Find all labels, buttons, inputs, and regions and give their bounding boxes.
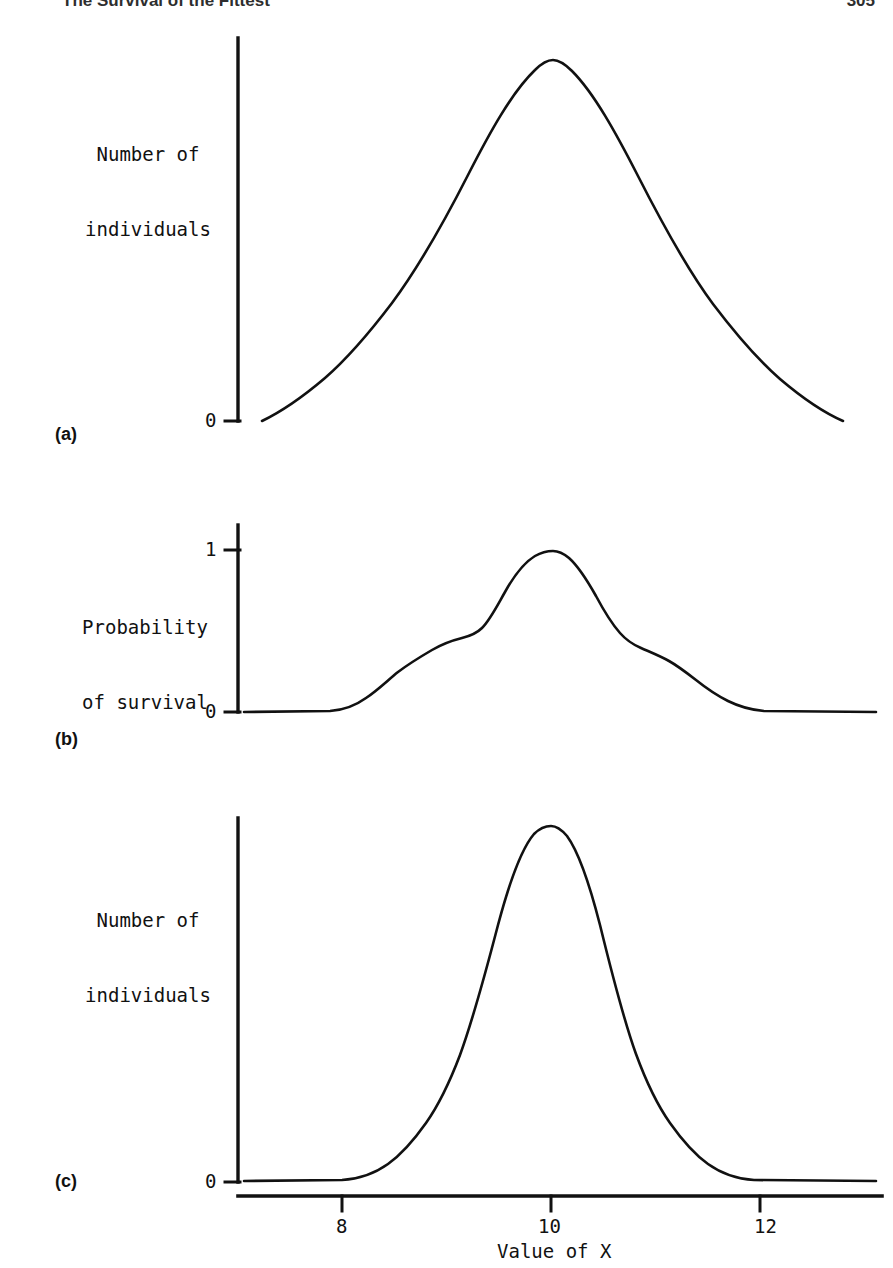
x-tick-label-8: 8: [336, 1215, 347, 1237]
panel-c-ylabel-line1: Number of: [78, 908, 218, 933]
x-tick-label-10: 10: [538, 1215, 561, 1237]
x-axis: [238, 1196, 882, 1211]
panel-a-ylabel-line2: individuals: [78, 217, 218, 242]
figure-three-panel-selection: Number of individuals 0 (a) Probability …: [0, 0, 893, 1268]
panel-a-ytick-0: 0: [205, 409, 216, 431]
panel-b-curve: [244, 551, 876, 712]
x-axis-title: Value of X: [497, 1240, 611, 1262]
panel-b-ytick-1: 1: [205, 538, 216, 560]
x-tick-label-12: 12: [754, 1215, 777, 1237]
panel-letter-c: (c): [55, 1171, 77, 1192]
panel-a-ylabel-line1: Number of: [78, 142, 218, 167]
panel-b-ylabel-line2: of survival: [70, 690, 220, 715]
panel-b-ylabel-line1: Probability: [70, 615, 220, 640]
panel-c-ylabel: Number of individuals: [78, 858, 218, 1058]
panel-c-axes: [225, 818, 240, 1182]
panel-c-ylabel-line2: individuals: [78, 983, 218, 1008]
panel-c-curve: [244, 826, 876, 1181]
panel-letter-a: (a): [55, 424, 77, 445]
panel-c-ytick-0: 0: [205, 1170, 216, 1192]
panel-letter-b: (b): [55, 729, 78, 750]
panel-a-curve: [262, 60, 843, 421]
panel-a-axes: [225, 38, 240, 421]
panel-b-ytick-0: 0: [205, 700, 216, 722]
panel-b-ylabel: Probability of survival: [70, 565, 220, 765]
panel-a-ylabel: Number of individuals: [78, 92, 218, 292]
panel-b-axes: [225, 525, 240, 712]
